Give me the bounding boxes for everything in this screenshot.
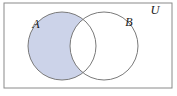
universal-set-label: U [150,3,160,17]
venn-diagram-figure: A B U [0,0,177,96]
set-b-label: B [125,15,133,29]
set-a-label: A [31,17,40,31]
venn-diagram-canvas: A B U [0,0,177,96]
